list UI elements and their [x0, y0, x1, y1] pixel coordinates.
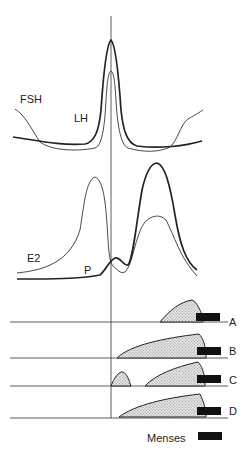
lh-label: LH	[74, 112, 88, 124]
row-c: C	[10, 362, 237, 386]
row-b: B	[10, 334, 236, 358]
row-label-d: D	[229, 405, 237, 417]
menses-block-b	[197, 347, 221, 355]
menses-legend-swatch	[198, 432, 222, 440]
hormone-cycle-diagram: FSH LH E2 P A B C D Menses	[0, 0, 248, 461]
row-a: A	[10, 300, 237, 328]
fsh-curve	[15, 71, 203, 151]
row-label-a: A	[229, 316, 237, 328]
menses-legend-label: Menses	[147, 432, 186, 444]
row-label-c: C	[229, 374, 237, 386]
e2-label: E2	[27, 252, 40, 264]
menses-block-d	[197, 407, 221, 415]
legend: Menses	[147, 432, 222, 444]
fsh-label: FSH	[20, 93, 42, 105]
menses-block-c	[197, 375, 221, 383]
menses-block-a	[196, 313, 220, 321]
row-label-b: B	[229, 345, 236, 357]
p-label: P	[84, 264, 91, 276]
row-d: D	[10, 394, 237, 418]
